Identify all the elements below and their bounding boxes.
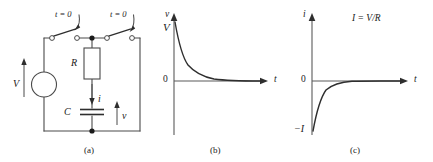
panel-b-voltage-plot: v V 0 t (b) xyxy=(152,0,292,162)
panel-c-current-plot: i 0 −I t I = V/R (c) xyxy=(290,0,433,162)
voltage-decay-chart xyxy=(152,0,292,162)
switch-right-label: t = 0 xyxy=(110,10,127,19)
curve-voltage-decay xyxy=(175,22,260,81)
capacitor-symbol xyxy=(80,110,104,115)
junction-dot-bottom xyxy=(89,128,94,133)
source-voltage-arrow xyxy=(21,58,26,97)
resistor-symbol xyxy=(84,48,100,79)
switch-left-action-arrow xyxy=(74,15,80,31)
peak-value-label-b: V xyxy=(163,22,170,33)
caption-b: (b) xyxy=(210,146,221,155)
branch-current-label: i xyxy=(98,94,101,104)
x-axis-label-b: t xyxy=(274,75,277,85)
y-axis xyxy=(309,13,316,135)
source-label: V xyxy=(13,79,19,89)
panel-a-circuit: t = 0 t = 0 V R C i v (a) xyxy=(0,0,160,162)
caption-c: (c) xyxy=(350,146,360,155)
circuit-schematic xyxy=(0,0,160,162)
origin-label-b: 0 xyxy=(163,75,168,85)
capacitor-label: C xyxy=(64,107,71,117)
caption-a: (a) xyxy=(84,146,94,155)
switch-left[interactable] xyxy=(50,29,80,41)
switch-right-blade xyxy=(109,29,132,36)
switch-right[interactable] xyxy=(105,29,135,41)
switch-left-label: t = 0 xyxy=(55,10,72,19)
voltage-source-symbol xyxy=(32,72,57,97)
capacitor-voltage-arrow xyxy=(114,101,119,125)
junction-dot-top xyxy=(89,35,94,40)
equation-label-c: I = V/R xyxy=(352,14,381,24)
current-rise-chart xyxy=(290,0,433,162)
min-value-label-c: −I xyxy=(294,124,304,134)
capacitor-voltage-label: v xyxy=(122,111,126,121)
switch-right-contact-terminal xyxy=(130,36,135,41)
resistor-label: R xyxy=(71,58,77,68)
curve-current-rise xyxy=(313,81,400,131)
switch-left-contact-terminal xyxy=(75,36,80,41)
switch-left-blade xyxy=(54,29,77,36)
figure-rc-transient: t = 0 t = 0 V R C i v (a) v V 0 t (b) xyxy=(0,0,433,162)
y-axis-label-c: i xyxy=(303,10,306,20)
x-axis-label-c: t xyxy=(414,75,417,85)
origin-label-c: 0 xyxy=(301,75,306,85)
y-axis-label-b: v xyxy=(165,10,169,20)
branch-current-arrow xyxy=(89,84,94,105)
